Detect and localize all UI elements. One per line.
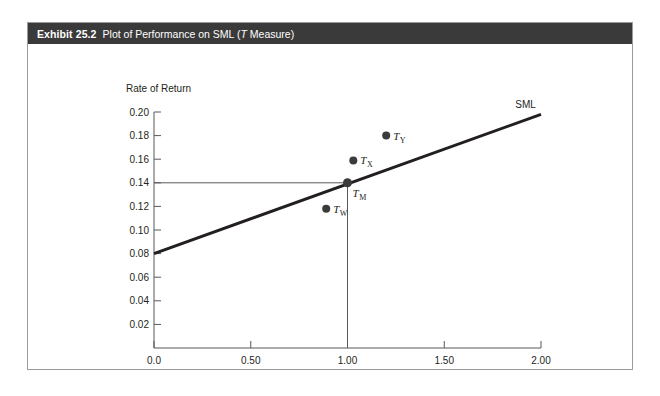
- y-axis-tick-marks: [154, 112, 161, 324]
- data-point-subscript-tw: W: [340, 209, 348, 218]
- exhibit-number: Exhibit 25.2: [37, 28, 97, 40]
- data-point-tw: [322, 205, 330, 213]
- sml-annotation: SML: [515, 99, 536, 110]
- data-point-label-tm: TM: [353, 187, 367, 202]
- x-axis-tick-labels: 0.00.501.001.502.00: [147, 355, 551, 366]
- y-tick-label: 0.14: [130, 177, 150, 188]
- y-tick-label: 0.08: [130, 248, 150, 259]
- data-point-label-tw: TW: [333, 203, 348, 218]
- exhibit-caption-suffix: Measure): [247, 28, 294, 40]
- data-point-ty: [382, 132, 390, 140]
- x-tick-label: 1.50: [435, 355, 455, 366]
- sml-scatter-chart: Rate of Return 0.020.040.060.080.100.120…: [28, 44, 634, 370]
- exhibit-caption-prefix: Plot of Performance on SML (: [103, 28, 241, 40]
- guide-lines: [154, 183, 348, 348]
- data-point-tx: [349, 156, 357, 164]
- exhibit-caption: Plot of Performance on SML (T Measure): [103, 28, 295, 40]
- x-tick-label: 0.50: [241, 355, 261, 366]
- data-point-label-ty: TY: [393, 130, 406, 145]
- data-point-subscript-tx: X: [367, 160, 373, 169]
- y-tick-label: 0.12: [130, 201, 150, 212]
- y-axis-title: Rate of Return: [126, 83, 191, 94]
- x-tick-label: 2.00: [531, 355, 551, 366]
- y-axis-title-group: Rate of Return: [126, 83, 191, 94]
- data-points-group: TWTMTXTY: [322, 130, 406, 218]
- exhibit-title-bar: Exhibit 25.2 Plot of Performance on SML …: [28, 23, 632, 44]
- y-tick-label: 0.10: [130, 225, 150, 236]
- x-tick-label: 1.00: [338, 355, 358, 366]
- y-tick-label: 0.16: [130, 154, 150, 165]
- y-tick-label: 0.06: [130, 272, 150, 283]
- data-point-subscript-tm: M: [359, 193, 366, 202]
- data-point-subscript-ty: Y: [400, 136, 406, 145]
- exhibit-frame: Exhibit 25.2 Plot of Performance on SML …: [27, 22, 633, 370]
- data-point-label-tx: TX: [360, 154, 373, 169]
- y-axis-tick-labels: 0.020.040.060.080.100.120.140.160.180.20: [130, 107, 150, 330]
- data-point-tm: [343, 178, 352, 187]
- chart-plot-area: Rate of Return 0.020.040.060.080.100.120…: [28, 44, 634, 370]
- x-tick-label: 0.0: [147, 355, 161, 366]
- chart-annotations: SML: [515, 99, 536, 110]
- y-tick-label: 0.18: [130, 130, 150, 141]
- y-tick-label: 0.04: [130, 295, 150, 306]
- y-tick-label: 0.02: [130, 319, 150, 330]
- y-tick-label: 0.20: [130, 107, 150, 118]
